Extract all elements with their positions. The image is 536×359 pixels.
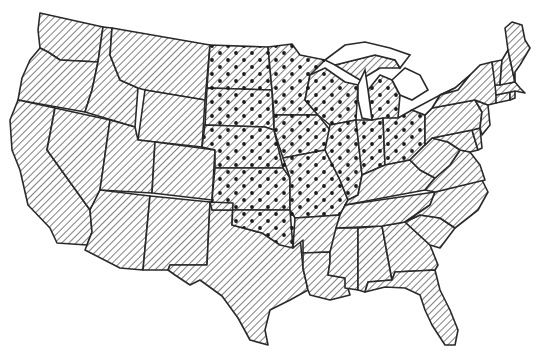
us-map: Contiguous United States bbox=[0, 0, 536, 359]
state-az bbox=[85, 190, 150, 270]
map-svg bbox=[0, 0, 536, 359]
state-nm bbox=[143, 196, 210, 270]
state-ny bbox=[432, 62, 498, 108]
state-wy bbox=[138, 90, 205, 147]
state-fl bbox=[365, 270, 458, 345]
state-co bbox=[152, 142, 215, 200]
